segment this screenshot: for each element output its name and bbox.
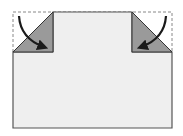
origami-fold-diagram <box>0 0 183 136</box>
